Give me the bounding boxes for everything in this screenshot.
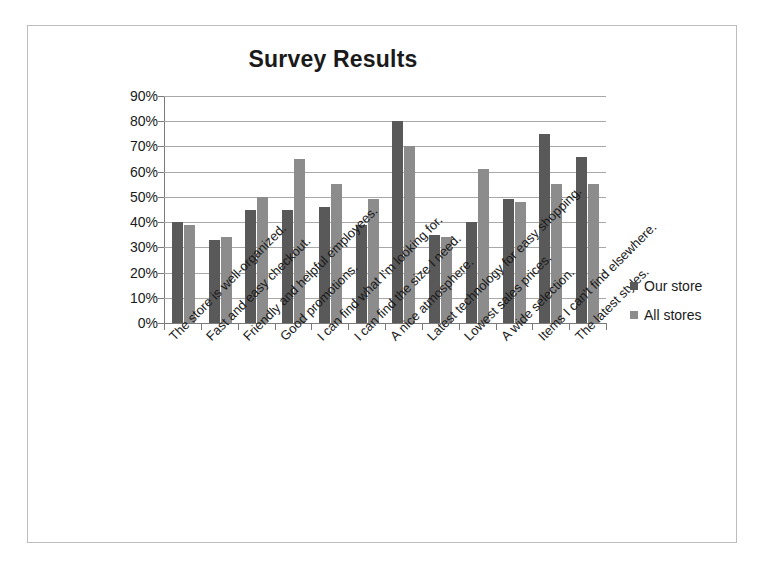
y-tick-mark-50 [158, 197, 164, 198]
chart-legend: Our storeAll stores [630, 278, 738, 336]
chart-title: Survey Results [28, 46, 638, 73]
y-tick-mark-60 [158, 172, 164, 173]
y-tick-label-90: 90% [106, 89, 158, 103]
chart-page: Survey Results 90%80%70%60%50%40%30%20%1… [0, 0, 766, 573]
y-tick-mark-80 [158, 121, 164, 122]
y-tick-label-70: 70% [106, 139, 158, 153]
legend-label: Our store [644, 278, 702, 294]
y-tick-label-80: 80% [106, 114, 158, 128]
legend-item[interactable]: All stores [630, 307, 738, 323]
x-axis-category-labels: The store is well-organized.Fast and eas… [28, 326, 648, 516]
y-tick-label-50: 50% [106, 190, 158, 204]
y-tick-label-10: 10% [106, 291, 158, 305]
bar-group [165, 96, 202, 323]
chart-frame: Survey Results 90%80%70%60%50%40%30%20%1… [27, 25, 737, 543]
y-tick-label-60: 60% [106, 165, 158, 179]
bar[interactable] [478, 169, 489, 323]
y-tick-mark-20 [158, 273, 164, 274]
bar[interactable] [588, 184, 599, 323]
y-tick-mark-10 [158, 298, 164, 299]
legend-swatch-icon [630, 282, 638, 290]
y-tick-mark-30 [158, 247, 164, 248]
y-tick-mark-0 [158, 323, 164, 324]
legend-item[interactable]: Our store [630, 278, 738, 294]
y-tick-label-30: 30% [106, 240, 158, 254]
y-tick-mark-70 [158, 146, 164, 147]
bar[interactable] [172, 222, 183, 323]
y-tick-label-40: 40% [106, 215, 158, 229]
bar[interactable] [515, 202, 526, 323]
y-axis-tick-labels: 90%80%70%60%50%40%30%20%10%0% [102, 96, 158, 323]
legend-swatch-icon [630, 311, 638, 319]
y-tick-mark-90 [158, 96, 164, 97]
y-tick-label-20: 20% [106, 266, 158, 280]
y-tick-mark-40 [158, 222, 164, 223]
legend-label: All stores [644, 307, 702, 323]
